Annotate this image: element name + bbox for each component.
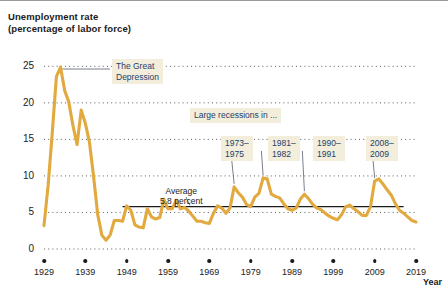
x-tick-label-1979: 1979 <box>234 267 268 277</box>
x-tick-dot-1959 <box>166 259 170 263</box>
annotation-great-depression-line1: The Great <box>116 61 154 71</box>
x-tick-dot-1979 <box>249 259 253 263</box>
annotation-recession-1973-1975: 1973– 1975 <box>221 136 253 161</box>
y-tick-label-20: 20 <box>12 97 34 108</box>
x-tick-dot-1969 <box>208 259 212 263</box>
x-tick-dot-1949 <box>125 259 129 263</box>
x-tick-dot-2009 <box>373 259 377 263</box>
x-tick-label-1939: 1939 <box>68 267 102 277</box>
x-tick-dot-1929 <box>42 259 46 263</box>
y-tick-label-10: 10 <box>12 170 34 181</box>
annotation-average: Average 5.8 percent <box>160 186 203 206</box>
annotation-r2-line2: 1982 <box>272 149 291 159</box>
annotation-r1-line1: 1973– <box>225 138 249 148</box>
x-axis-title: Year <box>423 277 442 287</box>
annotation-r3-line2: 1991 <box>317 149 336 159</box>
annotation-recession-1990-1991: 1990– 1991 <box>313 136 345 161</box>
leader-recession-1990-1991 <box>302 151 304 191</box>
x-tick-label-2019: 2019 <box>399 267 433 277</box>
annotation-great-depression: The Great Depression <box>112 59 163 84</box>
y-tick-label-15: 15 <box>12 133 34 144</box>
annotation-average-line1: Average <box>166 186 198 196</box>
x-tick-label-1989: 1989 <box>275 267 309 277</box>
y-tick-label-25: 25 <box>12 60 34 71</box>
leader-recession-1981-1982 <box>261 151 263 175</box>
x-tick-dot-1939 <box>84 259 88 263</box>
x-tick-dot-2019 <box>414 259 418 263</box>
annotation-r4-line2: 2009 <box>370 149 389 159</box>
annotation-average-line2: 5.8 percent <box>160 196 203 206</box>
x-tick-label-1969: 1969 <box>192 267 226 277</box>
annotation-r3-line1: 1990– <box>317 138 341 148</box>
x-tick-label-1929: 1929 <box>27 267 61 277</box>
annotation-r4-line1: 2008– <box>370 138 394 148</box>
x-tick-dot-1999 <box>332 259 336 263</box>
y-tick-label-5: 5 <box>12 206 34 217</box>
annotation-large-recessions: Large recessions in ... <box>190 108 281 123</box>
x-tick-dot-1989 <box>290 259 294 263</box>
annotation-recession-2008-2009: 2008– 2009 <box>366 136 398 161</box>
annotation-recession-1981-1982: 1981– 1982 <box>268 136 300 161</box>
chart-root: Unemployment rate (percentage of labor f… <box>0 1 448 300</box>
annotation-r2-line1: 1981– <box>272 138 296 148</box>
x-tick-label-1959: 1959 <box>151 267 185 277</box>
annotation-r1-line2: 1975 <box>225 149 244 159</box>
x-tick-label-2009: 2009 <box>358 267 392 277</box>
x-tick-label-1949: 1949 <box>110 267 144 277</box>
x-tick-label-1999: 1999 <box>316 267 350 277</box>
y-tick-label-0: 0 <box>12 243 34 254</box>
annotation-great-depression-line2: Depression <box>116 72 159 82</box>
